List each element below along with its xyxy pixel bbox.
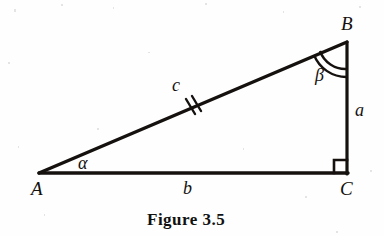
triangle-diagram-svg	[0, 0, 384, 236]
side-label-a: a	[355, 101, 364, 119]
right-angle-marker-c	[334, 160, 347, 173]
figure-caption: Figure 3.5	[147, 210, 225, 230]
angle-label-alpha: α	[78, 154, 87, 172]
side-label-b: b	[183, 179, 192, 197]
vertex-label-b: B	[341, 14, 353, 33]
figure-container: A B C a b c α β Figure 3.5	[0, 0, 384, 236]
vertex-label-c: C	[340, 179, 353, 198]
side-label-c: c	[172, 76, 180, 94]
vertex-label-a: A	[31, 179, 43, 198]
angle-label-beta: β	[315, 66, 324, 84]
